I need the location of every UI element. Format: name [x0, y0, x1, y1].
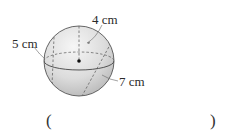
label-4cm: 4 cm: [92, 13, 118, 26]
answer-close-paren: ): [210, 112, 216, 129]
sphere: [44, 26, 114, 96]
label-7cm: 7 cm: [119, 75, 145, 88]
label-5cm: 5 cm: [12, 37, 38, 50]
answer-blank[interactable]: [56, 112, 206, 130]
answer-open-paren: (: [46, 112, 52, 129]
center-dot: [77, 59, 81, 63]
